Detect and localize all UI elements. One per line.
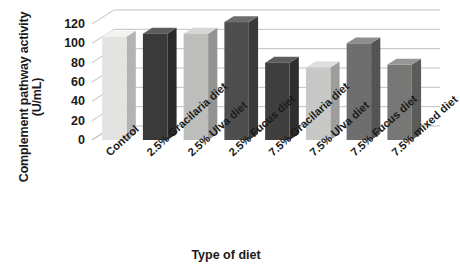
y-axis-tick-label: 20	[55, 114, 85, 127]
y-axis-title-line2: (U/mL)	[31, 78, 44, 116]
y-axis-tick-label: 100	[55, 37, 85, 50]
x-axis-tick-labels: Control2.5% Gracilaria diet2.5% Ulva die…	[88, 148, 452, 248]
y-axis-title: Complement pathway activity (U/mL)	[8, 2, 54, 192]
y-axis-tick-label: 120	[55, 18, 85, 31]
bar-front-face	[143, 34, 167, 140]
x-axis-title: Type of diet	[0, 248, 452, 262]
y-axis-tick-label: 0	[55, 134, 85, 147]
y-axis-tick-label: 80	[55, 56, 85, 69]
y-axis-tick-label: 60	[55, 76, 85, 89]
y-axis-tick-label: 40	[55, 95, 85, 108]
y-axis-tick-labels: 020406080100120	[55, 12, 85, 148]
bar-front-face	[102, 37, 126, 140]
